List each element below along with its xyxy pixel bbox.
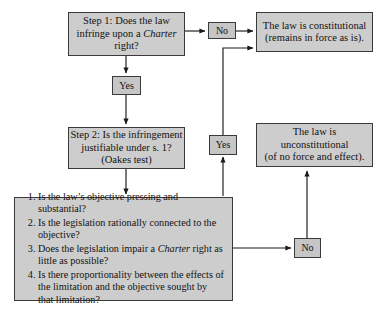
node-step2[interactable]: Step 2: Is the infringement justifiable … bbox=[68, 127, 185, 169]
node-step2-line3: (Oakes test) bbox=[101, 154, 151, 166]
node-step1-line2-text: infringe upon a bbox=[76, 28, 143, 39]
edge-label-no-top[interactable]: No bbox=[208, 22, 236, 39]
node-unconstitutional-line1: The law is bbox=[293, 126, 337, 138]
oakes-test-item: Is the law’s objective pressing and subs… bbox=[38, 191, 225, 216]
edge-yes-to-constitutional bbox=[223, 48, 253, 135]
oakes-test-item-text: Is the legislation rationally connected … bbox=[38, 217, 216, 240]
node-step1-line2-emphasis: Charter bbox=[143, 28, 176, 39]
edge-label-yes-right[interactable]: Yes bbox=[209, 135, 237, 155]
oakes-test-item-text: Is there proportionality between the eff… bbox=[38, 269, 224, 305]
edge-label-yes-left-text: Yes bbox=[119, 80, 134, 92]
edge-label-no-bottom-text: No bbox=[301, 242, 313, 254]
node-unconstitutional-line2: unconstitutional bbox=[281, 139, 349, 151]
node-unconstitutional-line3: (of no force and effect). bbox=[265, 151, 365, 163]
oakes-test-item: Does the legislation impair a Charter ri… bbox=[38, 243, 225, 268]
node-constitutional[interactable]: The law is constitutional (remains in fo… bbox=[256, 12, 373, 52]
oakes-test-item: Is there proportionality between the eff… bbox=[38, 269, 225, 306]
oakes-test-item-emphasis: Charter bbox=[158, 243, 190, 254]
node-step1-line2: infringe upon a Charter bbox=[76, 28, 176, 40]
edge-label-no-top-text: No bbox=[216, 25, 228, 37]
oakes-test-item-text: Does the legislation impair a bbox=[38, 243, 158, 254]
flowchart-diagram: Step 1: Does the law infringe upon a Cha… bbox=[0, 0, 380, 317]
node-step1[interactable]: Step 1: Does the law infringe upon a Cha… bbox=[68, 12, 185, 56]
node-step2-line2: justifiable under s. 1? bbox=[81, 142, 171, 154]
oakes-test-items: Is the law’s objective pressing and subs… bbox=[22, 191, 225, 307]
edge-label-yes-left[interactable]: Yes bbox=[112, 76, 141, 95]
oakes-test-item-text: Is the law’s objective pressing and subs… bbox=[38, 191, 178, 214]
edge-label-yes-right-text: Yes bbox=[216, 139, 231, 151]
node-constitutional-line1: The law is constitutional bbox=[263, 20, 367, 32]
node-unconstitutional[interactable]: The law is unconstitutional (of no force… bbox=[256, 123, 373, 167]
node-step2-line1: Step 2: Is the infringement bbox=[71, 129, 183, 141]
node-step1-line3: right? bbox=[114, 40, 139, 52]
node-constitutional-line2: (remains in force as is). bbox=[265, 32, 364, 44]
oakes-test-item: Is the legislation rationally connected … bbox=[38, 217, 225, 242]
edge-label-no-bottom[interactable]: No bbox=[294, 238, 321, 258]
node-oakes-test-list[interactable]: Is the law’s objective pressing and subs… bbox=[14, 197, 233, 301]
node-step1-line1: Step 1: Does the law bbox=[83, 15, 170, 27]
